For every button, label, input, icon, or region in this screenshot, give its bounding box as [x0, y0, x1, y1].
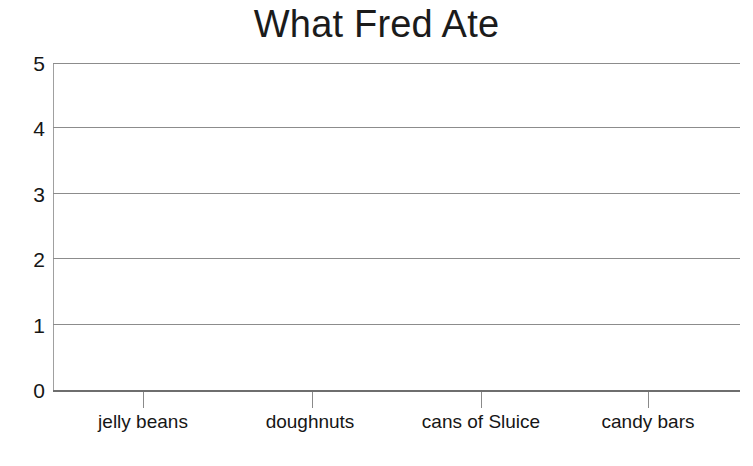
- y-tick-label-2: 2: [11, 249, 45, 270]
- x-category-label-candy-bars: candy bars: [602, 410, 695, 434]
- y-tick-label-1: 1: [11, 315, 45, 336]
- plot-area: [53, 63, 740, 391]
- x-tick-doughnuts: [312, 392, 313, 408]
- x-category-label-cans-of-sluice: cans of Sluice: [422, 410, 540, 434]
- chart-screenshot: What Fred Ate 5 4 3 2 1 0 jelly beans do…: [0, 0, 753, 466]
- y-tick-label-0: 0: [11, 380, 45, 401]
- y-tick-label-3: 3: [11, 184, 45, 205]
- x-tick-cans-of-sluice: [481, 392, 482, 408]
- x-category-label-jelly-beans: jelly beans: [98, 410, 188, 434]
- y-tick-label-5: 5: [11, 53, 45, 74]
- x-category-label-doughnuts: doughnuts: [266, 410, 355, 434]
- y-tick-label-4: 4: [11, 118, 45, 139]
- bars-layer: [53, 63, 740, 391]
- x-tick-jelly-beans: [143, 392, 144, 408]
- y-axis-tick-labels: 5 4 3 2 1 0: [0, 0, 45, 466]
- x-tick-candy-bars: [648, 392, 649, 408]
- chart-title: What Fred Ate: [0, 2, 753, 46]
